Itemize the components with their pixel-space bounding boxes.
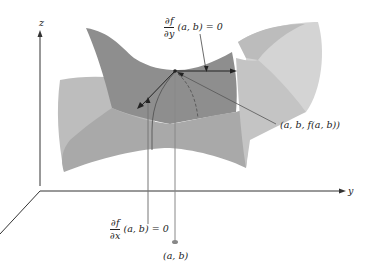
partial-x-fraction: ∂f ∂x bbox=[110, 218, 120, 240]
critical-point-label: (a, b, f(a, b)) bbox=[280, 120, 340, 130]
z-axis-arrowhead bbox=[38, 30, 43, 37]
y-axis-arrowhead bbox=[339, 189, 346, 194]
partial-y-label: ∂f ∂y (a, b) = 0 bbox=[164, 16, 223, 38]
partial-y-numerator: ∂f bbox=[164, 16, 174, 28]
partial-x-equation: (a, b) = 0 bbox=[123, 224, 168, 234]
partial-x-label: ∂f ∂x (a, b) = 0 bbox=[110, 218, 169, 240]
critical-point bbox=[173, 69, 177, 73]
base-point bbox=[172, 240, 178, 244]
partial-y-denominator: ∂y bbox=[164, 28, 174, 39]
x-axis bbox=[0, 191, 40, 234]
partial-y-equation: (a, b) = 0 bbox=[177, 22, 222, 32]
y-axis-label: y bbox=[348, 186, 353, 196]
diagram-canvas bbox=[0, 0, 365, 268]
partial-y-fraction: ∂f ∂y bbox=[164, 16, 174, 38]
partial-x-denominator: ∂x bbox=[110, 230, 120, 241]
partial-x-numerator: ∂f bbox=[110, 218, 120, 230]
z-axis-label: z bbox=[39, 18, 44, 28]
saddle-point-diagram: z y ∂f ∂y (a, b) = 0 ∂f ∂x (a, b) = 0 (a… bbox=[0, 0, 365, 268]
base-point-label: (a, b) bbox=[163, 251, 188, 261]
